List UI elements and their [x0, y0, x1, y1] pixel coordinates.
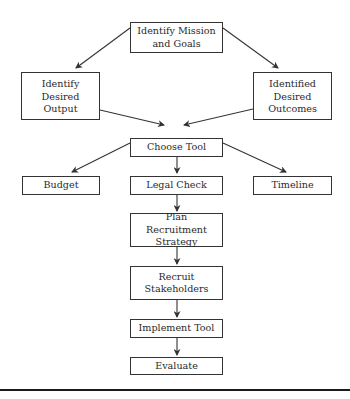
flowchart-diagram: Identify Mission and Goals Identify Desi… [0, 0, 350, 399]
node-label: Plan Recruitment Strategy [134, 211, 219, 249]
node-label: Identify Desired Output [25, 78, 96, 116]
node-label: Choose Tool [147, 141, 206, 154]
node-identify-mission-and-goals: Identify Mission and Goals [130, 22, 223, 53]
node-label: Timeline [271, 179, 313, 192]
node-legal-check: Legal Check [130, 176, 223, 195]
node-budget: Budget [22, 176, 100, 195]
node-label: Implement Tool [139, 322, 215, 335]
node-label: Identify Mission and Goals [137, 25, 216, 50]
arrow-choose-to-budget [72, 143, 130, 172]
node-identify-desired-output: Identify Desired Output [21, 72, 100, 120]
node-label: Evaluate [155, 360, 198, 373]
arrow-choose-to-timeline [223, 143, 286, 172]
node-timeline: Timeline [253, 176, 332, 195]
bottom-divider-rule [0, 389, 350, 391]
node-label: Budget [43, 179, 78, 192]
arrow-outcomes-to-choose [184, 109, 253, 125]
node-label: Recruit Stakeholders [145, 271, 209, 296]
node-plan-recruitment-strategy: Plan Recruitment Strategy [130, 213, 223, 247]
node-identified-desired-outcomes: Identified Desired Outcomes [253, 72, 332, 120]
node-choose-tool: Choose Tool [130, 138, 223, 157]
arrow-output-to-choose [100, 110, 164, 125]
node-label: Identified Desired Outcomes [268, 78, 317, 116]
arrow-mission-to-output [76, 28, 130, 68]
connector-arrows [0, 0, 350, 399]
arrow-mission-to-outcomes [223, 28, 278, 68]
node-evaluate: Evaluate [130, 357, 223, 375]
node-recruit-stakeholders: Recruit Stakeholders [130, 266, 223, 300]
node-label: Legal Check [146, 179, 206, 192]
node-implement-tool: Implement Tool [130, 319, 223, 338]
